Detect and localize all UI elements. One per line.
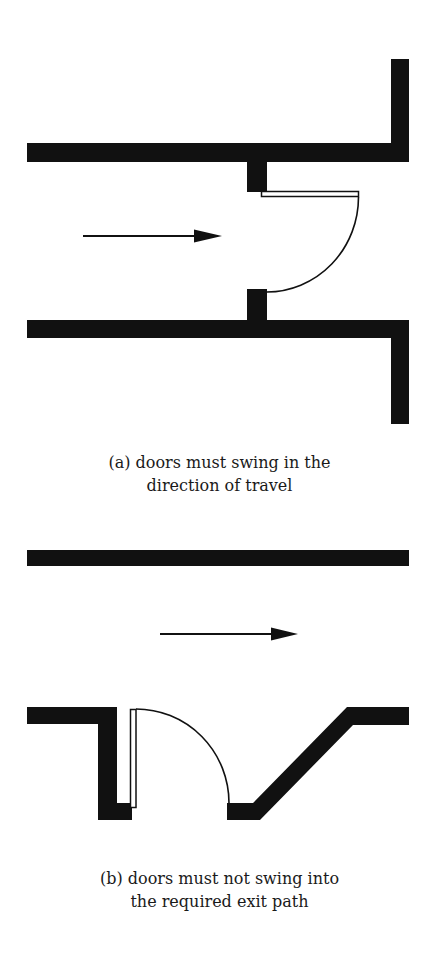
caption-b-line2: the required exit path (0, 890, 439, 913)
panel-a (27, 59, 409, 424)
lower-door-jamb (247, 289, 267, 322)
travel-direction-arrow (160, 628, 298, 641)
top-wall (27, 59, 409, 162)
caption-a-line2: direction of travel (0, 474, 439, 497)
door-leaf (262, 192, 359, 197)
upper-door-jamb (247, 160, 267, 192)
caption-a: (a) doors must swing in the direction of… (0, 451, 439, 497)
caption-b-line1: (b) doors must not swing into (0, 867, 439, 890)
bottom-wall (27, 320, 409, 424)
travel-direction-arrow (83, 230, 222, 243)
door-swing-arc (136, 709, 229, 803)
door-recess-wall (27, 707, 132, 820)
door-swing-arc (267, 197, 359, 292)
caption-a-line1: (a) doors must swing in the (0, 451, 439, 474)
door-leaf (131, 710, 137, 808)
angled-wall (227, 707, 409, 820)
top-wall (27, 550, 409, 566)
caption-b: (b) doors must not swing into the requir… (0, 867, 439, 913)
panel-b (27, 550, 409, 820)
